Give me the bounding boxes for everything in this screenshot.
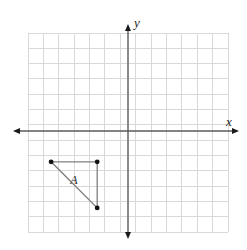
triangle-a-label: A <box>69 173 78 187</box>
x-axis-right-arrow-icon <box>232 128 239 134</box>
x-axis-label: x <box>225 114 232 129</box>
coordinate-plane-svg: x y A <box>0 0 247 250</box>
triangle-vertex-dot <box>49 159 54 164</box>
triangle-vertex-dot <box>95 206 100 211</box>
coordinate-plane-figure: x y A <box>0 0 247 250</box>
y-axis-down-arrow-icon <box>125 232 131 239</box>
y-axis-up-arrow-icon <box>125 24 131 31</box>
axes <box>16 27 236 236</box>
triangle-vertex-dot <box>95 159 100 164</box>
x-axis-left-arrow-icon <box>13 128 20 134</box>
y-axis-label: y <box>132 15 140 30</box>
